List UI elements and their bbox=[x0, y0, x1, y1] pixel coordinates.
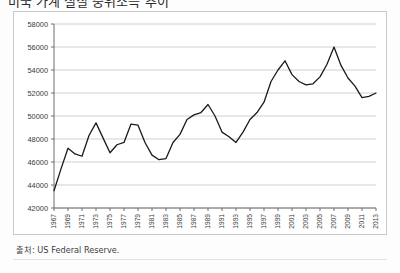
x-axis-tick-label: 1969 bbox=[64, 214, 71, 229]
y-axis-tick-label: 56000 bbox=[27, 43, 48, 52]
x-axis-tick-label: 2007 bbox=[330, 214, 337, 229]
figure-container: 미국 가계 실질 중위소득 추이 42000440004600048000500… bbox=[0, 0, 400, 273]
x-axis-tick-label: 1999 bbox=[274, 214, 281, 229]
y-axis-tick-label: 42000 bbox=[27, 204, 48, 213]
y-axis-tick-label: 52000 bbox=[27, 89, 48, 98]
y-axis-tick-label: 54000 bbox=[27, 66, 48, 75]
x-axis-tick-label: 2005 bbox=[316, 214, 323, 229]
x-axis-tick-label: 1987 bbox=[190, 214, 197, 229]
x-axis-tick-label: 1977 bbox=[120, 214, 127, 229]
x-axis-tick-label: 2013 bbox=[372, 214, 379, 229]
x-axis-tick-label: 2009 bbox=[344, 214, 351, 229]
x-axis-tick-label: 1995 bbox=[246, 214, 253, 229]
y-axis-ticks-group: 4200044000460004800050000520005400056000… bbox=[27, 20, 54, 213]
x-axis-tick-label: 1985 bbox=[176, 214, 183, 229]
y-axis-tick-label: 50000 bbox=[27, 112, 48, 121]
x-axis-tick-label: 2011 bbox=[358, 214, 365, 229]
x-axis-tick-label: 1991 bbox=[218, 214, 225, 229]
y-axis-tick-label: 48000 bbox=[27, 135, 48, 144]
chart-title-text: 미국 가계 실질 중위소득 추이 bbox=[8, 0, 169, 9]
y-axis-tick-label: 58000 bbox=[27, 20, 48, 29]
source-note: 출처: US Federal Reserve. bbox=[16, 243, 119, 255]
x-axis-tick-label: 1983 bbox=[162, 214, 169, 229]
data-series-line bbox=[54, 47, 376, 191]
chart-frame: 4200044000460004800050000520005400056000… bbox=[13, 11, 387, 235]
x-axis-ticks-group: 1967196919711973197519771979198119831985… bbox=[50, 208, 379, 229]
chart-title-clipped: 미국 가계 실질 중위소득 추이 bbox=[0, 0, 400, 9]
y-axis-tick-label: 44000 bbox=[27, 181, 48, 190]
x-axis-tick-label: 1967 bbox=[50, 214, 57, 229]
x-axis-tick-label: 1979 bbox=[134, 214, 141, 229]
bottom-divider bbox=[13, 259, 387, 260]
x-axis-tick-label: 1993 bbox=[232, 214, 239, 229]
x-axis-tick-label: 1971 bbox=[78, 214, 85, 229]
x-axis-tick-label: 1975 bbox=[106, 214, 113, 229]
x-axis-tick-label: 1973 bbox=[92, 214, 99, 229]
y-axis-tick-label: 46000 bbox=[27, 158, 48, 167]
x-axis-tick-label: 1981 bbox=[148, 214, 155, 229]
x-axis-tick-label: 2001 bbox=[288, 214, 295, 229]
x-axis-tick-label: 2003 bbox=[302, 214, 309, 229]
line-chart-plot: 4200044000460004800050000520005400056000… bbox=[14, 12, 386, 234]
x-axis-tick-label: 1989 bbox=[204, 214, 211, 229]
x-axis-tick-label: 1997 bbox=[260, 214, 267, 229]
